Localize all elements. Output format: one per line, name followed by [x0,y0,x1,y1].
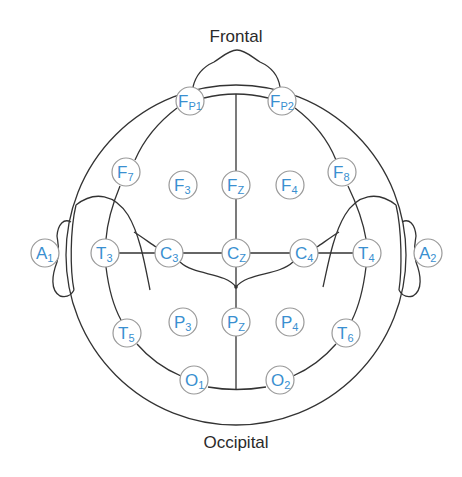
curve-c4-midline [236,262,293,287]
left-ear-inner-arc [71,205,76,290]
right-temporal-branch [317,232,339,247]
ring-f8-t4 [348,186,366,239]
electrode-t3: T3 [91,239,119,267]
electrode-t6: T6 [332,319,360,347]
curve-c3-midline [180,262,236,287]
electrode-f4: F4 [276,171,304,199]
head-outline [53,50,420,425]
electrode-p3: P3 [169,308,197,336]
ring-t5-o1 [137,344,181,376]
electrode-fp2: FP2 [268,87,296,115]
electrode-c4: C4 [290,239,318,267]
ring-t4-t6 [352,267,366,320]
nose-shape [193,50,280,87]
electrode-p4: P4 [276,308,304,336]
electrode-t5: T5 [113,319,141,347]
electrode-f7: F7 [112,158,140,186]
electrode-c3: C3 [155,239,183,267]
electrode-pz: PZ [222,308,250,336]
ring-fp1-f7 [135,108,177,160]
ring-t3-t5 [106,267,121,320]
ring-o1-o2 [208,387,266,390]
ring-t6-o2 [293,344,336,376]
occipital-label: Occipital [203,433,268,452]
eeg-10-20-diagram: Frontal Occipital [0,0,462,477]
electrode-fz: FZ [222,171,250,199]
electrode-o2: O2 [266,366,294,394]
electrode-a1: A1 [31,239,59,267]
electrode-a2: A2 [414,239,442,267]
electrode-f8: F8 [328,158,356,186]
midline-junction-dot [234,285,238,289]
electrode-o1: O1 [180,366,208,394]
left-temporal-branch [134,232,156,247]
electrode-f3: F3 [169,171,197,199]
electrode-cz: CZ [222,239,250,267]
electrode-fp1: FP1 [176,87,204,115]
ring-f7-t3 [106,186,120,239]
electrode-t4: T4 [353,239,381,267]
frontal-label: Frontal [210,27,263,46]
ring-fp2-f8 [295,108,336,160]
right-ear-inner-arc [396,205,401,290]
